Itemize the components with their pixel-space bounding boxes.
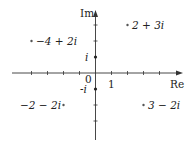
point-label-2-plus-3i: 2 + 3i (132, 20, 164, 31)
y-axis-label: Im (80, 8, 94, 19)
i-label: i (85, 52, 88, 63)
i-point (94, 55, 97, 58)
neg-i-label: -i (80, 84, 87, 95)
x-axis-label: Re (170, 79, 184, 90)
point-label-neg4-plus-2i: −4 + 2i (36, 36, 77, 47)
point-3-minus-2i (142, 104, 144, 106)
point-neg4-plus-2i (30, 40, 32, 42)
unit-label: 1 (108, 79, 115, 90)
point-label-neg2-minus-2i: −2 − 2i (20, 100, 61, 111)
point-2-plus-3i (126, 24, 128, 26)
complex-plane-diagram: Im Re 0 1 i -i 2 + 3i −4 + 2i −2 − 2i 3 … (0, 0, 192, 147)
point-neg2-minus-2i (62, 104, 64, 106)
neg-i-point (94, 87, 97, 90)
point-label-3-minus-2i: 3 − 2i (148, 100, 180, 111)
real-axis-arrow-icon (176, 71, 183, 76)
